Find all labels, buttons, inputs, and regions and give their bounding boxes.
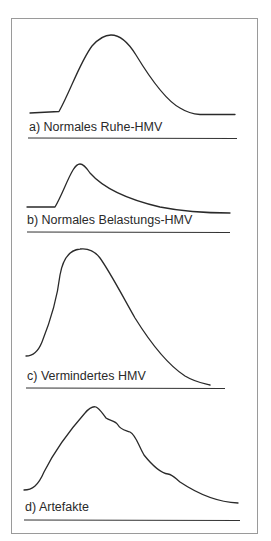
baseline-a bbox=[28, 138, 237, 139]
panel-b-label: b) Normales Belastungs-HMV bbox=[27, 214, 192, 227]
curve-c-reduced-output bbox=[26, 249, 210, 385]
curve-b-exercise-output bbox=[27, 164, 230, 213]
panel-c-label: c) Vermindertes HMV bbox=[27, 370, 146, 383]
curve-a-resting-output bbox=[30, 35, 235, 115]
curves-canvas bbox=[0, 0, 271, 541]
baseline-d bbox=[24, 520, 240, 521]
panel-a-label: a) Normales Ruhe-HMV bbox=[29, 121, 162, 134]
curve-d-artifacts bbox=[24, 407, 238, 503]
panel-d-label: d) Artefakte bbox=[25, 501, 89, 514]
baseline-b bbox=[27, 232, 230, 233]
baseline-c bbox=[26, 388, 225, 389]
